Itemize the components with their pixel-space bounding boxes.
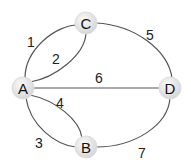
edge-label-2: 2: [52, 51, 60, 67]
node-b: B: [75, 136, 97, 158]
edge-label-5: 5: [146, 27, 154, 43]
node-label-b: B: [81, 139, 91, 156]
edge-label-3: 3: [35, 135, 43, 151]
edge-7: [96, 98, 170, 147]
edge-label-4: 4: [56, 95, 64, 111]
edge-label-6: 6: [95, 70, 103, 86]
node-a: A: [12, 77, 34, 99]
node-d: D: [159, 77, 181, 99]
node-label-c: C: [81, 15, 92, 32]
edge-label-1: 1: [27, 34, 35, 50]
node-label-a: A: [18, 80, 28, 97]
node-c: C: [75, 12, 97, 34]
graph-diagram: 1 2 3 4 5 6 7 A B C D: [0, 0, 191, 167]
edge-5: [96, 23, 172, 78]
node-label-d: D: [165, 80, 176, 97]
edge-label-7: 7: [138, 145, 146, 161]
edge-3: [26, 98, 76, 147]
